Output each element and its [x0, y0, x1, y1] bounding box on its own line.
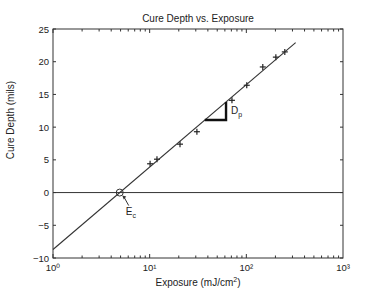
x-tick-label: 10³: [336, 262, 350, 273]
data-point-marker: [194, 129, 200, 135]
ticks: −10−5051015202510⁰10¹10²10³: [33, 24, 350, 274]
data-series: [53, 43, 343, 250]
data-point-marker: [147, 161, 153, 167]
x-tick-label: 10¹: [143, 262, 157, 273]
fit-line: [53, 43, 296, 250]
annotations: [116, 102, 226, 206]
data-point-marker: [177, 141, 183, 147]
axes: [53, 29, 343, 258]
dp-annotation-label: Dp: [231, 105, 242, 118]
x-tick-label: 10⁰: [46, 262, 61, 273]
ec-annotation-label: Ec: [126, 206, 136, 219]
y-tick-label: 5: [44, 154, 49, 165]
y-tick-label: 15: [38, 89, 49, 100]
y-tick-label: 20: [38, 56, 49, 67]
x-tick-label: 10²: [239, 262, 253, 273]
chart-plot: −10−5051015202510⁰10¹10²10³: [0, 0, 366, 299]
y-tick-label: 10: [38, 122, 49, 133]
y-tick-label: −5: [38, 220, 49, 231]
y-tick-label: 25: [38, 24, 49, 35]
plot-frame: [53, 29, 343, 258]
y-tick-label: 0: [44, 187, 49, 198]
